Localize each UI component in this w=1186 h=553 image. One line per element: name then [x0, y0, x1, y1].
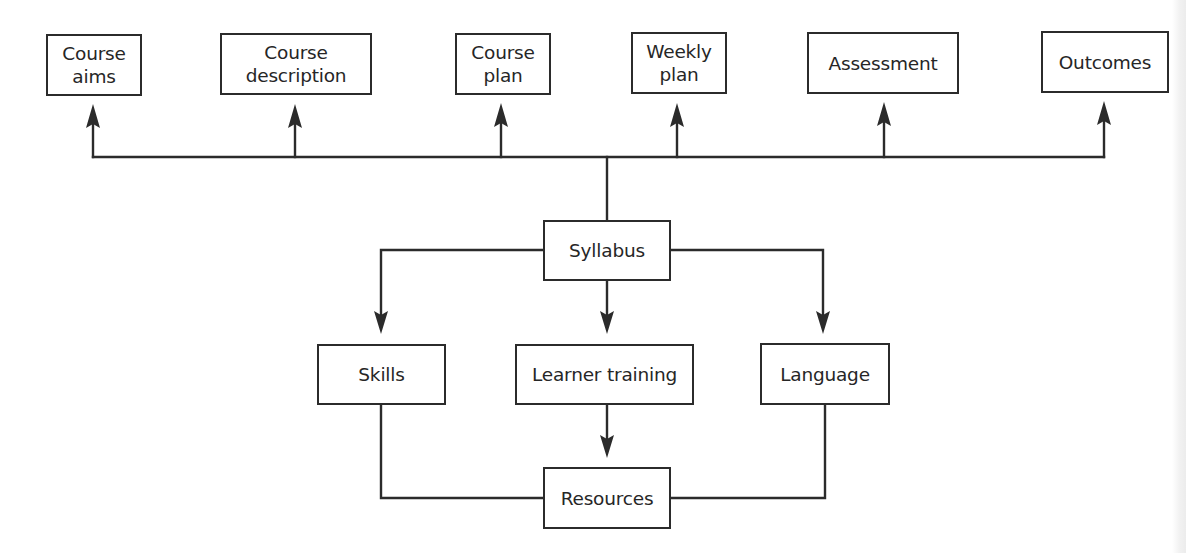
- node-course-aims: Course aims: [46, 34, 142, 96]
- syllabus-to-skills-line: [381, 250, 543, 318]
- node-skills: Skills: [317, 344, 446, 405]
- node-language: Language: [760, 343, 890, 405]
- node-assessment: Assessment: [807, 32, 959, 94]
- node-course-description: Course description: [220, 33, 372, 95]
- node-learner-training: Learner training: [515, 344, 694, 405]
- skills-to-resources-line: [381, 404, 543, 498]
- syllabus-to-language-line: [670, 250, 823, 318]
- language-to-resources-line: [670, 404, 825, 498]
- node-outcomes: Outcomes: [1041, 31, 1169, 93]
- node-weekly-plan: Weekly plan: [631, 32, 727, 94]
- node-course-plan: Course plan: [455, 33, 551, 95]
- node-resources: Resources: [543, 467, 671, 529]
- node-syllabus: Syllabus: [543, 220, 671, 281]
